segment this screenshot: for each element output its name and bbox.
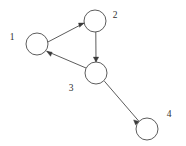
- edge-2-to-3-arrowhead: [93, 57, 98, 62]
- node-3-label: 3: [69, 83, 74, 93]
- edge-2-to-3[interactable]: [93, 32, 98, 62]
- node-1[interactable]: [26, 33, 48, 55]
- edge-1-to-2-line: [48, 23, 84, 42]
- node-3-circle[interactable]: [85, 62, 107, 84]
- edge-3-to-4[interactable]: [104, 81, 139, 125]
- edge-3-to-1-arrowhead: [47, 51, 53, 56]
- edge-1-to-2-arrowhead: [79, 23, 85, 27]
- node-4-label: 4: [167, 109, 172, 119]
- node-1-label: 1: [10, 32, 15, 42]
- node-4[interactable]: [136, 118, 158, 140]
- edge-3-to-1[interactable]: [47, 51, 86, 68]
- node-3[interactable]: [85, 62, 107, 84]
- node-2[interactable]: [84, 10, 106, 32]
- edge-1-to-2[interactable]: [48, 23, 84, 42]
- node-2-circle[interactable]: [84, 10, 106, 32]
- node-2-label: 2: [113, 10, 118, 20]
- node-4-circle[interactable]: [136, 118, 158, 140]
- graph-diagram-canvas: 1 2 3 4: [0, 0, 186, 146]
- edge-3-to-1-line: [47, 51, 86, 68]
- node-1-circle[interactable]: [26, 33, 48, 55]
- edge-3-to-4-line: [104, 81, 139, 121]
- graph-svg: 1 2 3 4: [0, 0, 186, 146]
